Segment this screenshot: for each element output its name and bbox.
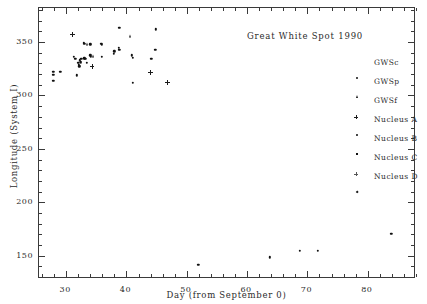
y-tick-right xyxy=(411,234,414,235)
data-point xyxy=(113,53,115,55)
x-tick xyxy=(187,271,188,277)
legend-item-nucleus-c[interactable]: Nucleus C xyxy=(352,153,422,172)
y-tick xyxy=(39,224,42,225)
x-tick-top xyxy=(66,8,67,14)
legend-label: Nucleus A xyxy=(374,115,417,124)
x-tick xyxy=(78,274,79,277)
x-tick-top xyxy=(259,8,260,11)
x-tick xyxy=(332,274,333,277)
x-tick xyxy=(392,274,393,277)
x-axis-label: Day (from September 0) xyxy=(38,290,415,300)
y-tick-right xyxy=(408,202,414,203)
x-tick xyxy=(416,274,417,277)
x-tick-top xyxy=(356,8,357,11)
x-tick-top xyxy=(283,8,284,11)
legend-item-nucleus-b[interactable]: Nucleus B xyxy=(352,134,422,153)
legend-marker xyxy=(356,178,358,197)
y-tick-right xyxy=(408,42,414,43)
y-axis-label: Longitude (System I) xyxy=(9,66,19,206)
x-tick xyxy=(344,274,345,277)
legend-label: GWSc xyxy=(374,58,399,67)
y-tick xyxy=(39,138,42,139)
data-point xyxy=(131,81,133,83)
y-tick xyxy=(39,277,42,278)
y-tick-right xyxy=(411,53,414,54)
data-point xyxy=(155,28,157,30)
data-point xyxy=(101,55,103,57)
x-tick-top xyxy=(344,8,345,11)
y-tick xyxy=(39,245,42,246)
x-tick-top xyxy=(102,8,103,11)
legend-item-gwsf[interactable]: GWSf xyxy=(352,96,422,115)
data-point xyxy=(316,250,318,252)
x-tick xyxy=(54,274,55,277)
x-tick-top xyxy=(392,8,393,11)
y-tick xyxy=(39,42,45,43)
data-point xyxy=(89,43,91,45)
x-tick-top xyxy=(163,8,164,11)
y-tick xyxy=(39,10,42,11)
y-tick xyxy=(39,85,42,86)
x-tick-top xyxy=(307,8,308,14)
x-tick xyxy=(368,271,369,277)
x-tick xyxy=(175,274,176,277)
x-tick xyxy=(102,274,103,277)
data-point xyxy=(52,73,54,75)
legend-label: GWSp xyxy=(374,77,400,86)
legend-item-nucleus-a[interactable]: Nucleus A xyxy=(352,115,422,134)
x-tick-top xyxy=(175,8,176,11)
x-tick xyxy=(211,274,212,277)
x-tick xyxy=(235,274,236,277)
legend-label: Nucleus C xyxy=(374,153,418,162)
x-tick-top xyxy=(199,8,200,11)
marker-diamond-icon xyxy=(356,190,359,193)
x-tick-top xyxy=(54,8,55,11)
y-tick xyxy=(39,181,42,182)
x-tick xyxy=(271,274,272,277)
chart-legend: GWScGWSpGWSfNucleus ANucleus BNucleus CN… xyxy=(352,58,422,191)
x-tick-top xyxy=(114,8,115,11)
legend-label: GWSf xyxy=(374,96,398,105)
y-tick xyxy=(39,31,42,32)
data-point xyxy=(118,27,120,29)
data-point xyxy=(131,56,133,58)
x-tick-top xyxy=(235,8,236,11)
data-point xyxy=(85,62,87,64)
y-tick xyxy=(39,128,42,129)
data-point xyxy=(197,263,199,265)
data-point xyxy=(390,232,392,234)
y-tick-right xyxy=(411,277,414,278)
x-tick xyxy=(380,274,381,277)
y-tick xyxy=(39,213,42,214)
y-tick-right xyxy=(411,224,414,225)
data-point xyxy=(101,44,103,46)
x-tick xyxy=(114,274,115,277)
data-point xyxy=(150,57,152,59)
x-tick xyxy=(223,274,224,277)
data-point xyxy=(298,250,300,252)
data-point xyxy=(78,65,80,67)
x-tick-top xyxy=(247,8,248,14)
y-tick-right xyxy=(411,192,414,193)
legend-item-gwsp[interactable]: GWSp xyxy=(352,77,422,96)
x-tick xyxy=(283,274,284,277)
chart-figure: Great White Spot 1990 304050607080 15020… xyxy=(0,0,427,304)
legend-label: Nucleus B xyxy=(374,134,418,143)
x-tick-top xyxy=(90,8,91,11)
legend-item-nucleus-d[interactable]: Nucleus D xyxy=(352,172,422,191)
y-tick-right xyxy=(411,245,414,246)
x-tick xyxy=(66,271,67,277)
data-point xyxy=(86,42,88,45)
data-point xyxy=(76,74,78,76)
x-tick-top xyxy=(42,8,43,11)
legend-item-gwsc[interactable]: GWSc xyxy=(352,58,422,77)
x-tick xyxy=(90,274,91,277)
y-tick xyxy=(39,149,45,150)
data-point xyxy=(118,48,120,50)
x-tick-top xyxy=(404,8,405,11)
y-tick xyxy=(39,170,42,171)
x-tick xyxy=(126,271,127,277)
data-point xyxy=(269,256,271,258)
x-tick-top xyxy=(380,8,381,11)
y-tick xyxy=(39,53,42,54)
